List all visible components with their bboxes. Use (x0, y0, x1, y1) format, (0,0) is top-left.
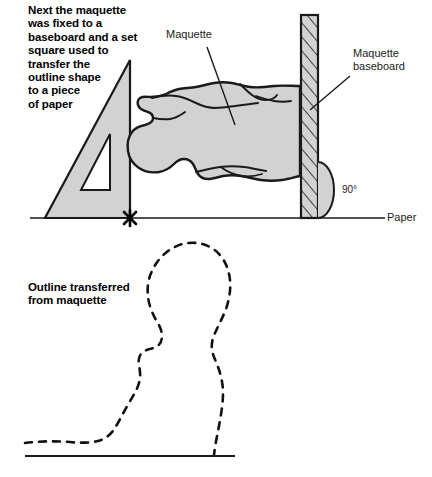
baseboard-body (301, 15, 318, 218)
maquette-baseboard (301, 15, 318, 218)
label-maquette-baseboard: Maquette baseboard (353, 47, 405, 73)
label-maquette: Maquette (166, 28, 212, 41)
right-angle-arc (318, 162, 334, 218)
transferred-outline (25, 243, 230, 455)
outline-caption: Outline transferred from maquette (28, 281, 178, 308)
outline-dashed-path (25, 243, 230, 455)
instruction-heading: Next the maquette was fixed to a baseboa… (28, 4, 158, 111)
label-paper: Paper (387, 211, 416, 224)
label-right-angle: 90° (342, 183, 357, 196)
